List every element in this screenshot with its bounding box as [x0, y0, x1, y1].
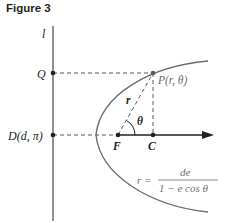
arrowhead-icon [202, 131, 214, 139]
label-c: C [148, 140, 156, 152]
label-d: D(d, π) [7, 129, 43, 143]
conic-polar-diagram: l Q D(d, π) P(r, θ) F C r θ r = de 1 − e… [0, 0, 228, 223]
directrix-label: l [42, 27, 46, 41]
point-c [151, 133, 156, 138]
label-p: P(r, θ) [157, 74, 187, 87]
label-r: r [126, 94, 131, 106]
label-f: F [112, 140, 121, 152]
point-p [151, 71, 156, 76]
label-theta: θ [137, 115, 143, 127]
equation-numerator: de [180, 166, 191, 178]
point-q [51, 71, 56, 76]
equation-denominator: 1 − e cos θ [159, 182, 208, 194]
theta-arc [127, 121, 136, 136]
equation-lhs: r = [137, 174, 151, 186]
label-q: Q [37, 67, 46, 81]
label-p-args: (r, θ) [165, 74, 187, 87]
label-d-args: (d, π) [17, 129, 43, 143]
point-f [116, 133, 121, 138]
label-p-prefix: P [157, 74, 165, 86]
point-d [51, 133, 56, 138]
label-d-prefix: D [7, 129, 17, 143]
